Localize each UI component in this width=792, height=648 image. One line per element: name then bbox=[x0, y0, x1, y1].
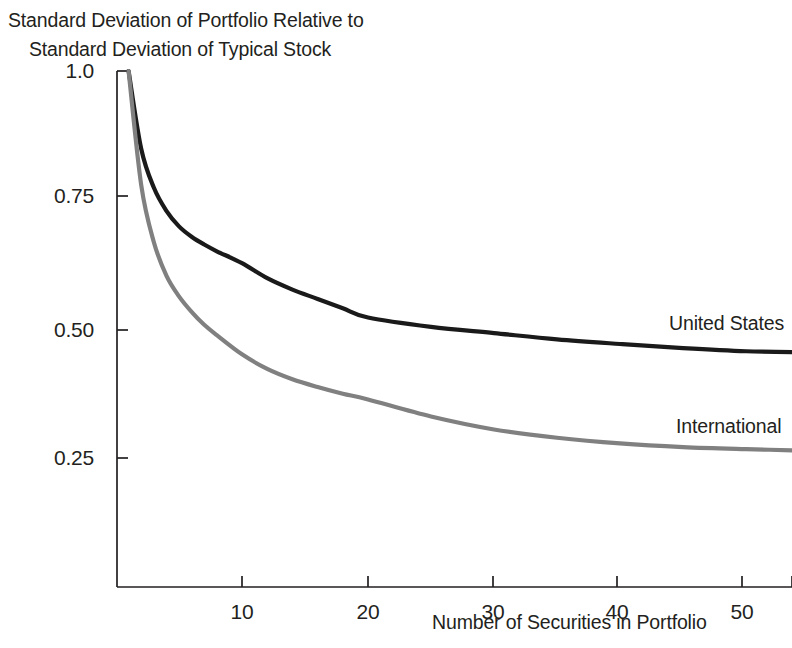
x-axis-title: Number of Securities in Portfolio bbox=[432, 610, 707, 634]
x-axis-ticks bbox=[242, 576, 792, 587]
y-tick-label-1-0: 1.0 bbox=[8, 60, 94, 81]
series-curve-united-states bbox=[129, 71, 792, 352]
x-tick-label-20: 20 bbox=[338, 601, 398, 622]
x-tick-label-50: 50 bbox=[712, 601, 772, 622]
y-tick-label-0-50: 0.50 bbox=[8, 319, 94, 340]
y-axis-ticks bbox=[117, 71, 128, 458]
series-curves bbox=[129, 71, 792, 451]
series-curve-international bbox=[129, 71, 792, 451]
series-label-united-states: United States bbox=[669, 312, 784, 334]
x-tick-label-10: 10 bbox=[212, 601, 272, 622]
chart-figure: Standard Deviation of Portfolio Relative… bbox=[0, 0, 792, 648]
series-label-international: International bbox=[676, 415, 781, 437]
y-tick-label-0-25: 0.25 bbox=[8, 447, 94, 468]
y-tick-label-0-75: 0.75 bbox=[8, 185, 94, 206]
